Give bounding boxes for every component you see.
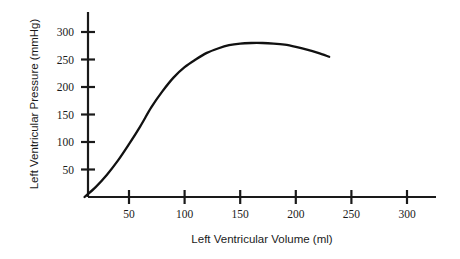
x-axis-title: Left Ventricular Volume (ml) — [191, 233, 332, 245]
y-axis-title: Left Ventricular Pressure (mmHg) — [28, 19, 40, 190]
chart-container: 50100150200250300 50100150200250300 Left… — [0, 0, 460, 259]
y-tick-label: 150 — [57, 109, 75, 121]
x-tick-label: 300 — [398, 208, 416, 220]
x-tick-label: 150 — [232, 208, 250, 220]
x-tick-label: 250 — [343, 208, 361, 220]
pressure-volume-chart: 50100150200250300 50100150200250300 Left… — [0, 0, 460, 259]
x-tick-label: 50 — [123, 208, 135, 220]
data-series-line — [85, 43, 330, 197]
y-tick-label: 200 — [57, 81, 75, 93]
x-axis-ticks: 50100150200250300 — [123, 190, 416, 220]
axes-group — [88, 12, 436, 197]
y-tick-label: 250 — [57, 54, 75, 66]
y-axis-ticks: 50100150200250300 — [57, 26, 95, 176]
y-tick-label: 100 — [57, 136, 75, 148]
y-tick-label: 50 — [63, 164, 75, 176]
x-tick-label: 100 — [176, 208, 194, 220]
x-tick-label: 200 — [287, 208, 305, 220]
y-tick-label: 300 — [57, 26, 75, 38]
